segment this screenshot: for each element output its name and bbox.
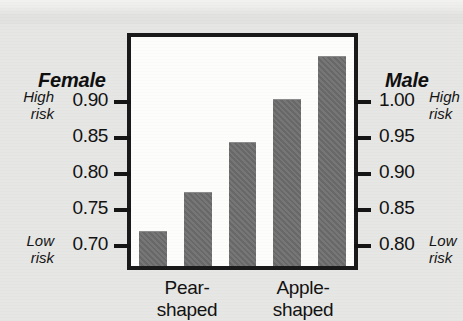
left-axis-tick-label-2: 0.80: [58, 162, 108, 181]
left-high-risk-line2: risk: [0, 106, 54, 123]
bar-group: [131, 37, 354, 266]
category-pear-line1: Pear-: [132, 277, 242, 299]
left-axis-tick-label-0: 0.90: [58, 90, 108, 109]
right-axis-tick-label-4: 0.80: [379, 234, 429, 253]
right-low-risk-line1: Low: [429, 233, 463, 250]
category-pear-line2: shaped: [132, 299, 242, 321]
bar-5: [318, 56, 346, 266]
scan-artifact-band-top: [0, 0, 463, 14]
left-axis-tick-2: [114, 172, 131, 176]
left-axis-tick-4: [114, 244, 131, 248]
left-axis-tick-label-4: 0.70: [58, 234, 108, 253]
left-axis-tick-1: [114, 136, 131, 140]
bar-3: [229, 142, 257, 266]
right-axis-tick-0: [354, 100, 371, 104]
bar-4: [273, 99, 301, 266]
left-axis-heading: Female: [38, 70, 106, 90]
left-axis-tick-label-3: 0.75: [58, 198, 108, 217]
left-axis-high-risk-label: High risk: [0, 89, 54, 123]
left-axis-tick-label-1: 0.85: [58, 126, 108, 145]
left-low-risk-line2: risk: [0, 250, 54, 267]
right-axis-tick-label-2: 0.90: [379, 162, 429, 181]
right-axis-low-risk-label: Low risk: [429, 233, 463, 267]
right-axis-tick-label-1: 0.95: [379, 126, 429, 145]
left-high-risk-line1: High: [0, 89, 54, 106]
category-apple-line1: Apple-: [248, 277, 358, 299]
category-apple-line2: shaped: [248, 299, 358, 321]
right-axis-tick-label-3: 0.85: [379, 198, 429, 217]
bar-2: [184, 192, 212, 266]
left-low-risk-line1: Low: [0, 233, 54, 250]
scan-artifact-band-secondary: [0, 14, 463, 24]
right-high-risk-line1: High: [429, 89, 463, 106]
left-axis-low-risk-label: Low risk: [0, 233, 54, 267]
right-high-risk-line2: risk: [429, 106, 463, 123]
right-axis-tick-3: [354, 208, 371, 212]
right-axis-tick-4: [354, 244, 371, 248]
right-axis-heading: Male: [385, 70, 429, 90]
bar-1: [139, 231, 167, 266]
right-low-risk-line2: risk: [429, 250, 463, 267]
left-axis-tick-0: [114, 100, 131, 104]
left-axis-tick-3: [114, 208, 131, 212]
right-axis-tick-1: [354, 136, 371, 140]
chart-plot-area: [127, 33, 358, 270]
category-label-pear-shaped: Pear- shaped: [132, 277, 242, 321]
right-axis-tick-label-0: 1.00: [379, 90, 429, 109]
category-label-apple-shaped: Apple- shaped: [248, 277, 358, 321]
right-axis-tick-2: [354, 172, 371, 176]
right-axis-high-risk-label: High risk: [429, 89, 463, 123]
